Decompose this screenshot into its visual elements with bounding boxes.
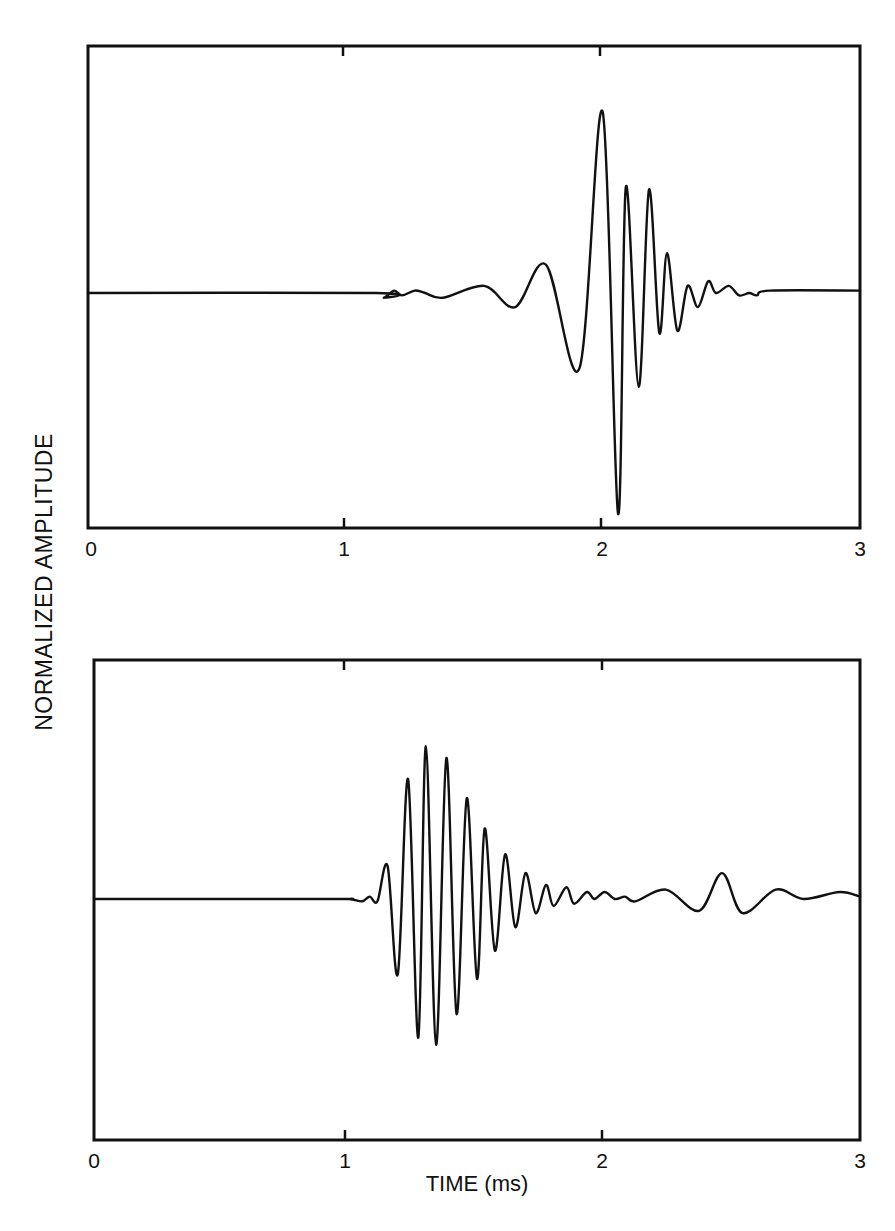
top-panel [88,46,860,528]
x-axis-title: TIME (ms) [426,1173,529,1195]
bottom-xtick-label-2: 2 [596,1150,608,1171]
y-axis-title: NORMALIZED AMPLITUDE [33,433,56,731]
top-xtick-label-1: 1 [338,538,350,559]
top-xtick-label-3: 3 [854,538,866,559]
bottom-xtick-label-1: 1 [339,1150,351,1171]
bottom-xtick-label-0: 0 [88,1150,100,1171]
bottom-panel [94,660,860,1140]
bottom-waveform-line [94,746,860,1044]
top-xtick-label-2: 2 [596,538,608,559]
bottom-xtick-label-3: 3 [854,1150,866,1171]
top-waveform-line [88,110,860,514]
top-xtick-label-0: 0 [85,538,97,559]
figure-canvas [0,0,895,1231]
